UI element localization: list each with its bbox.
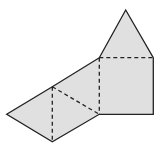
top-triangle-face [99,10,153,58]
net-faces [7,10,154,142]
left-triangle-face [7,87,53,142]
square-face [99,58,153,115]
net-diagram [0,0,164,150]
